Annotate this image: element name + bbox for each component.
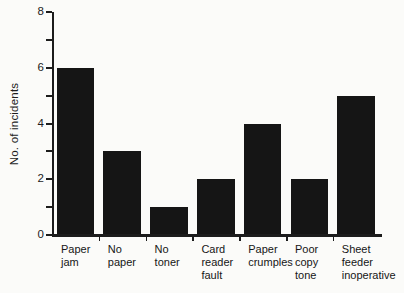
y-axis-tick (46, 95, 52, 97)
y-axis-line (52, 12, 54, 237)
x-category-label-line: feeder (342, 256, 396, 269)
y-axis-tick (46, 11, 52, 13)
y-axis-tick (46, 39, 52, 41)
x-category-label-line: reader (201, 256, 233, 269)
x-category-label: Nopaper (108, 243, 136, 269)
x-category-label-line: Card (201, 243, 233, 256)
x-axis-tick (239, 237, 241, 241)
x-axis-tick (99, 237, 101, 241)
x-axis-tick (192, 237, 194, 241)
bar-chart-figure: No. of incidents 02468PaperjamNopaperNot… (0, 0, 404, 293)
y-tick-label: 6 (14, 61, 44, 73)
x-category-label-line: No (155, 243, 180, 256)
bar-3 (197, 179, 235, 234)
bar-2 (150, 207, 188, 234)
bar-6 (337, 96, 375, 234)
y-axis-tick (46, 178, 52, 180)
x-category-label-line: paper (108, 256, 136, 269)
x-category-label-line: jam (61, 256, 90, 269)
x-category-label-line: Poor (295, 243, 318, 256)
bar-5 (291, 179, 329, 234)
x-category-label-line: toner (155, 256, 180, 269)
x-category-label-line: No (108, 243, 136, 256)
y-axis-tick (46, 234, 52, 236)
x-category-label: Notoner (155, 243, 180, 269)
y-tick-label: 8 (14, 5, 44, 17)
bar-1 (103, 151, 141, 234)
x-category-label-line: fault (201, 269, 233, 282)
x-category-label-line: Paper (248, 243, 293, 256)
x-axis-tick (286, 237, 288, 241)
x-category-label-line: crumples (248, 256, 293, 269)
x-category-label: Papercrumples (248, 243, 293, 269)
x-category-label-line: copy (295, 256, 318, 269)
x-category-label-line: inoperative (342, 269, 396, 282)
x-axis-tick (146, 237, 148, 241)
y-axis-tick (46, 67, 52, 69)
x-category-label: Paperjam (61, 243, 90, 269)
x-category-label: Poorcopytone (295, 243, 318, 282)
x-category-label-line: Paper (61, 243, 90, 256)
x-category-label: Cardreaderfault (201, 243, 233, 282)
bar-4 (244, 124, 282, 235)
y-axis-tick (46, 123, 52, 125)
bar-0 (57, 68, 95, 234)
y-tick-label: 4 (14, 117, 44, 129)
x-category-label: Sheetfeederinoperative (342, 243, 396, 282)
y-tick-label: 2 (14, 172, 44, 184)
y-axis-tick (46, 206, 52, 208)
x-category-label-line: tone (295, 269, 318, 282)
y-tick-label: 0 (14, 228, 44, 240)
x-category-label-line: Sheet (342, 243, 396, 256)
y-axis-tick (46, 150, 52, 152)
x-axis-tick (333, 237, 335, 241)
